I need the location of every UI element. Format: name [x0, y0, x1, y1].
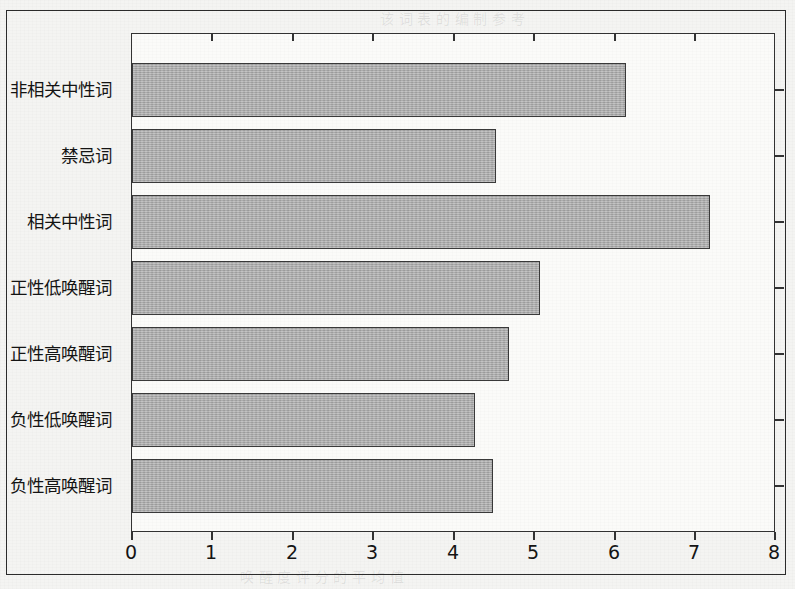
x-top-tick-mark-2: [292, 33, 294, 41]
x-tick-mark-8: [774, 532, 776, 540]
x-top-tick-mark-5: [533, 33, 535, 41]
y-tick-label-4: 正性高唤醒词: [0, 346, 120, 364]
y-right-tick-mark-6: [775, 485, 784, 487]
y-tick-label-3: 正性低唤醒词: [0, 280, 120, 298]
x-tick-mark-3: [372, 532, 374, 540]
x-tick-mark-0: [131, 532, 133, 540]
x-top-tick-mark-6: [614, 33, 616, 41]
x-tick-mark-4: [453, 532, 455, 540]
x-tick-label-8: 8: [754, 541, 794, 563]
x-tick-label-7: 7: [674, 541, 714, 563]
x-tick-label-3: 3: [352, 541, 392, 563]
x-tick-label-0: 0: [111, 541, 151, 563]
y-tick-label-6: 负性高唤醒词: [0, 478, 120, 496]
x-tick-mark-2: [292, 532, 294, 540]
x-tick-mark-6: [614, 532, 616, 540]
x-tick-mark-5: [533, 532, 535, 540]
y-axis-labels: 非相关中性词 禁忌词 相关中性词 正性低唤醒词 正性高唤醒词 负性低唤醒词 负性…: [0, 0, 795, 589]
x-top-tick-mark-1: [211, 33, 213, 41]
x-tick-label-6: 6: [594, 541, 634, 563]
x-top-tick-mark-3: [372, 33, 374, 41]
x-top-tick-mark-4: [453, 33, 455, 41]
y-right-tick-mark-3: [775, 287, 784, 289]
y-right-tick-mark-1: [775, 155, 784, 157]
y-tick-label-2: 相关中性词: [0, 214, 120, 232]
x-top-tick-mark-7: [694, 33, 696, 41]
y-right-tick-mark-5: [775, 419, 784, 421]
x-tick-mark-7: [694, 532, 696, 540]
y-tick-label-1: 禁忌词: [0, 148, 120, 166]
y-right-tick-mark-0: [775, 89, 784, 91]
y-tick-label-0: 非相关中性词: [0, 82, 120, 100]
x-tick-label-2: 2: [272, 541, 312, 563]
figure-page: 该 词 表 的 编 制 参 考 实 验 材 料 评 定 结 果 见 表 中 性 …: [0, 0, 795, 589]
x-tick-label-1: 1: [191, 541, 231, 563]
y-tick-label-5: 负性低唤醒词: [0, 412, 120, 430]
x-tick-label-4: 4: [433, 541, 473, 563]
y-right-tick-mark-4: [775, 353, 784, 355]
x-tick-mark-1: [211, 532, 213, 540]
bar-chart: 非相关中性词 禁忌词 相关中性词 正性低唤醒词 正性高唤醒词 负性低唤醒词 负性…: [0, 0, 795, 589]
x-tick-label-5: 5: [513, 541, 553, 563]
y-right-tick-mark-2: [775, 221, 784, 223]
